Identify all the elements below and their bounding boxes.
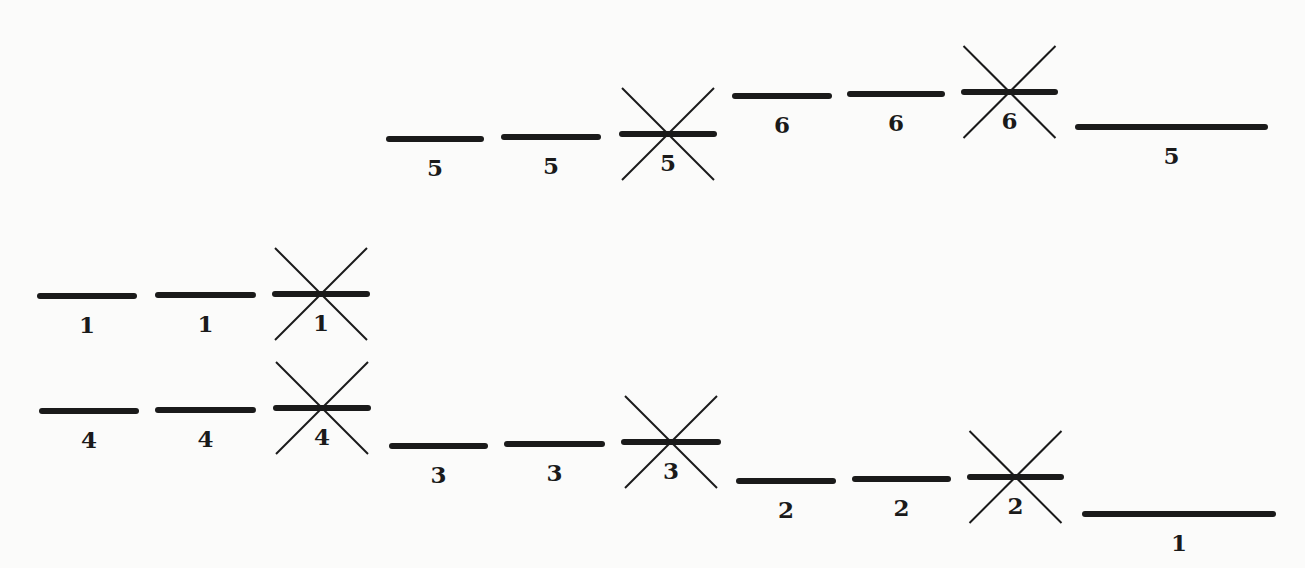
- energy-level: 6: [850, 94, 942, 136]
- energy-level: 3: [507, 444, 602, 486]
- level-label: 2: [778, 496, 794, 523]
- level-label: 5: [660, 149, 676, 176]
- energy-level: 4: [158, 410, 253, 452]
- energy-level: 1: [158, 295, 253, 337]
- level-label: 3: [546, 459, 562, 486]
- energy-level: 5: [389, 139, 481, 181]
- level-label: 3: [663, 457, 679, 484]
- energy-level: 2: [855, 479, 948, 521]
- energy-level: 2: [970, 431, 1062, 523]
- level-label: 2: [893, 494, 909, 521]
- level-label: 5: [1163, 142, 1179, 169]
- level-label: 6: [774, 111, 790, 138]
- level-label: 4: [197, 425, 213, 452]
- level-label: 6: [888, 109, 904, 136]
- level-label: 5: [543, 152, 559, 179]
- level-label: 4: [314, 423, 330, 450]
- level-label: 1: [79, 311, 95, 338]
- energy-level: 1: [40, 296, 134, 338]
- energy-level: 2: [739, 481, 833, 523]
- level-label: 2: [1007, 492, 1023, 519]
- energy-level: 5: [1078, 127, 1265, 169]
- energy-level: 1: [275, 248, 367, 340]
- energy-level: 3: [392, 446, 485, 488]
- level-label: 1: [313, 309, 329, 336]
- level-label: 6: [1001, 107, 1017, 134]
- energy-level: 6: [735, 96, 829, 138]
- level-label: 3: [430, 461, 446, 488]
- energy-level: 6: [964, 46, 1056, 138]
- level-label: 5: [427, 154, 443, 181]
- level-label: 1: [1171, 529, 1187, 556]
- level-label: 4: [81, 426, 97, 453]
- level-label: 1: [197, 310, 213, 337]
- energy-level: 4: [42, 411, 136, 453]
- energy-level: 3: [624, 396, 718, 488]
- energy-level: 5: [622, 88, 714, 180]
- energy-level: 5: [504, 137, 598, 179]
- energy-level-diagram: 11144455566653332221: [0, 0, 1305, 568]
- energy-level: 1: [1085, 514, 1273, 556]
- energy-level: 4: [276, 362, 368, 454]
